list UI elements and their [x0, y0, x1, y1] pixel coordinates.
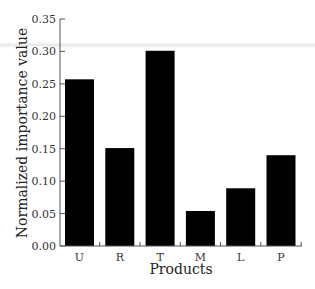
x-tick-label: R [116, 251, 125, 264]
x-tick-label: L [237, 251, 245, 264]
x-tick-label: P [277, 251, 285, 264]
bar-P [267, 155, 296, 246]
y-tick-label: 0.10 [32, 175, 57, 188]
y-tick-label: 0.00 [32, 240, 57, 253]
bar-U [65, 79, 94, 246]
y-tick-label: 0.30 [32, 45, 57, 58]
bar-L [226, 188, 255, 246]
y-tick-label: 0.35 [32, 13, 57, 26]
bar-R [105, 148, 134, 246]
y-tick-label: 0.05 [32, 208, 57, 221]
y-tick-label: 0.15 [32, 143, 57, 156]
bar-M [186, 211, 215, 246]
bars [65, 51, 296, 246]
x-axis-title: Products [149, 261, 212, 277]
y-axis: 0.000.050.100.150.200.250.300.35 [32, 13, 66, 253]
bar-T [146, 51, 175, 246]
x-tick-label: U [75, 251, 84, 264]
y-axis-title: Normalized importance value [14, 28, 30, 238]
y-tick-label: 0.20 [32, 110, 57, 123]
y-tick-label: 0.25 [32, 78, 57, 91]
bar-chart: 0.000.050.100.150.200.250.300.35 URTMLP … [0, 0, 315, 289]
